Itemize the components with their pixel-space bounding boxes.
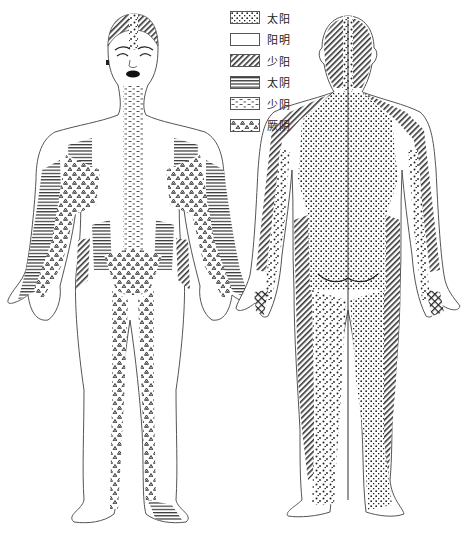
legend-item-taiyang: 太阳: [230, 7, 320, 29]
legend-label: 阳明: [267, 31, 290, 47]
triangles-pattern-swatch: [230, 119, 260, 132]
legend-item-shaoyang: 少阳: [230, 50, 320, 72]
legend: 太阳 阳明 少阳 太阴 少阴 厥阴: [230, 7, 320, 136]
blank-pattern-swatch: [230, 33, 260, 46]
ear-mark: [106, 60, 109, 65]
legend-item-yangming: 阳明: [230, 29, 320, 51]
legend-item-taiyin: 太阴: [230, 72, 320, 94]
dashes-pattern-swatch: [230, 97, 260, 110]
legend-label: 厥阴: [267, 117, 290, 133]
legend-label: 少阳: [267, 53, 290, 69]
legend-label: 太阳: [267, 10, 290, 26]
coarse-dots-pattern-swatch: [230, 11, 260, 24]
horizontal-lines-pattern-swatch: [230, 76, 260, 89]
mouth: [126, 71, 140, 78]
diagonal-hatch-pattern-swatch: [230, 54, 260, 67]
legend-label: 少阴: [267, 96, 290, 112]
front-figure: [8, 14, 252, 523]
legend-label: 太阴: [267, 74, 290, 90]
front-jueyin-left-leg: [110, 290, 128, 510]
legend-item-jueyin: 厥阴: [230, 115, 320, 137]
back-taiyang-left-leg: [312, 290, 346, 505]
front-head-midline-taiyang: [129, 14, 138, 50]
legend-item-shaoyin: 少阴: [230, 93, 320, 115]
